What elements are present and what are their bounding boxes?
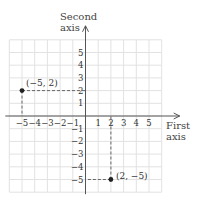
coordinate-plane: −5−4−3−2−112345−5−4−3−2−112345 (−5, 2)(2…: [0, 0, 197, 209]
x-tick-label: 2: [108, 118, 113, 128]
x-tick-label: −3: [41, 118, 54, 128]
x-tick-label: −4: [28, 118, 41, 128]
x-axis-title-line2: axis: [166, 131, 186, 142]
y-tick-label: −2: [71, 136, 84, 146]
x-tick-label: 5: [146, 118, 151, 128]
point-label: (2, −5): [116, 171, 148, 181]
point-label: (−5, 2): [26, 78, 58, 88]
projection-guides: [22, 91, 111, 180]
y-tick-label: −1: [71, 124, 84, 134]
y-tick-label: −3: [71, 149, 84, 159]
x-tick-label: 3: [121, 118, 126, 128]
points: (−5, 2)(2, −5): [20, 78, 148, 182]
x-tick-label: 4: [134, 118, 139, 128]
y-tick-label: 4: [78, 60, 83, 70]
y-tick-label: −4: [71, 162, 84, 172]
y-tick-label: 3: [78, 73, 83, 83]
data-point: [109, 177, 114, 182]
y-tick-label: 1: [78, 98, 83, 108]
y-axis-title-line2: axis: [60, 22, 80, 33]
y-tick-label: 2: [78, 86, 83, 96]
x-tick-label: −5: [16, 118, 29, 128]
x-axis-title-line1: First: [166, 120, 190, 131]
y-axis-title-line1: Second: [60, 11, 98, 22]
y-tick-label: 5: [78, 48, 83, 58]
data-point: [20, 88, 25, 93]
y-tick-label: −5: [71, 175, 84, 185]
x-tick-label: −2: [54, 118, 67, 128]
axes: [5, 26, 179, 194]
x-tick-label: 1: [95, 118, 100, 128]
